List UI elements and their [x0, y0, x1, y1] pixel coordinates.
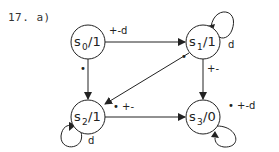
edge-s1-s3: +- — [203, 59, 219, 99]
edge-label-s0-s2: • — [80, 63, 86, 74]
state-s1-name: s — [189, 34, 196, 49]
edge-label-s0-s1: +-d — [109, 25, 127, 36]
edge-label-s1-s3: +- — [207, 63, 219, 74]
state-s1-output: /1 — [203, 34, 216, 49]
state-s2-sub: 2 — [82, 117, 88, 127]
state-s3-sub: 3 — [197, 117, 203, 127]
state-s2-name: s — [74, 109, 81, 124]
edge-label-s2-s3: • +- — [113, 101, 134, 112]
state-s0-name: s — [74, 34, 81, 49]
edge-label-s3-self: • +-d — [228, 100, 255, 111]
edge-s0-s1: +-d — [105, 25, 185, 42]
state-diagram: 17. a) +-d • d • — [0, 0, 279, 152]
edge-label-s1-s2: • — [181, 51, 187, 62]
state-s0-output: /1 — [88, 34, 101, 49]
edge-s1-s2: • — [105, 51, 189, 104]
state-s1-sub: 1 — [197, 42, 203, 52]
edge-s2-s3: • +- — [105, 101, 185, 117]
state-s1: s 1 /1 — [186, 25, 220, 59]
edge-label-s2-self: d — [88, 135, 94, 146]
state-s3-name: s — [189, 109, 196, 124]
edge-s0-s2: • — [80, 59, 88, 99]
state-s2: s 2 /1 — [71, 100, 105, 134]
state-s0: s 0 /1 — [71, 25, 105, 59]
state-s3: s 3 /0 — [186, 100, 220, 134]
diagram-svg: +-d • d • +- d — [0, 0, 279, 152]
edge-label-s1-self: d — [228, 39, 234, 50]
state-s3-output: /0 — [203, 109, 216, 124]
state-s2-output: /1 — [88, 109, 101, 124]
